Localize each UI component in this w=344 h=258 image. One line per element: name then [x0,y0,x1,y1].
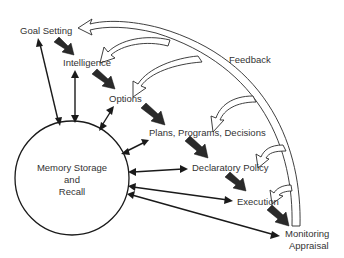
arrowhead [127,191,135,199]
stage-monitoring-appraisal: Monitoring Appraisal [285,228,329,251]
link-policy-memory [133,169,183,172]
arrowhead [141,139,149,146]
svg-text:Memory Storage: Memory Storage [37,162,107,173]
feedback-arrow-to-options [133,56,202,97]
fat-arrow-policy-to-execution [225,172,246,191]
arrowhead [36,38,43,47]
link-execution-memory [133,187,228,200]
stage-plans: Plans, Programs, Decisions [149,127,266,138]
fat-arrow-execution-to-monitoring [267,205,289,226]
stage-options: Options [109,93,142,104]
stage-goal-setting: Goal Setting [20,25,72,36]
fat-arrow-plans-to-policy [185,136,208,158]
decision-process-diagram: Feedback Memory Storage and Recall Goal … [0,0,344,258]
fat-arrow-goal-to-intelligence [54,37,74,55]
arrowhead [224,196,233,204]
svg-text:Monitoring: Monitoring [285,228,329,239]
fat-arrow-options-to-plans [141,103,165,125]
svg-text:Recall: Recall [59,186,85,197]
svg-text:Appraisal: Appraisal [289,240,329,251]
link-goal-memory [40,44,58,120]
feedback-label: Feedback [229,54,271,65]
arrowhead [180,165,188,173]
stage-intelligence: Intelligence [63,57,111,68]
arrowhead [270,231,280,239]
fat-arrow-intelligence-to-options [92,69,115,89]
arrowhead [71,70,79,78]
stage-declaratory-policy: Declaratory Policy [192,162,269,173]
svg-text:and: and [64,174,80,185]
